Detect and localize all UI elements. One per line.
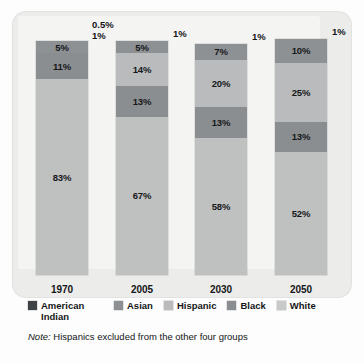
segment-value-label: 5% [135,42,149,53]
bar-segment-1970-white[interactable]: 83% [36,79,88,275]
bar-segment-2005-black[interactable]: 13% [116,86,168,117]
segment-value-label: 10% [292,45,311,56]
legend-item-white[interactable]: White [277,300,316,311]
segment-value-label: 14% [133,64,152,75]
bar-column-2050: 10%25%13%52% [275,39,327,275]
legend-swatch-icon [114,301,123,310]
stacked-bar-2050[interactable]: 10%25%13%52% [275,39,327,275]
legend-item-black[interactable]: Black [227,300,265,311]
bar-segment-2050-black[interactable]: 13% [275,122,327,153]
stacked-bars-layer: 5%11%83%19700.5%1%5%14%13%67%20051%7%20%… [13,12,351,297]
segment-value-label: 13% [133,96,152,107]
legend-label: White [290,300,316,311]
chart-container: 5%11%83%19700.5%1%5%14%13%67%20051%7%20%… [0,0,364,363]
legend-swatch-icon [164,301,173,310]
outside-value-label: 1% [92,30,106,41]
note-prefix: Note: [28,331,51,342]
legend-item-american-indian[interactable]: American Indian [28,300,103,322]
bar-segment-2030-asian[interactable]: 7% [195,44,247,61]
segment-value-label: 11% [53,61,71,72]
bar-segment-2030-black[interactable]: 13% [195,107,247,138]
stacked-bar-2030[interactable]: 7%20%13%58% [195,44,247,275]
segment-value-label: 13% [292,131,311,142]
x-axis-label-2005: 2005 [116,284,168,295]
legend-item-asian[interactable]: Asian [114,300,153,311]
legend-label: Hispanic [177,300,217,311]
legend-label: Asian [127,300,153,311]
legend-swatch-icon [227,301,236,310]
segment-value-label: 20% [212,78,231,89]
outside-value-label: 1% [252,31,266,42]
bar-segment-2005-white[interactable]: 67% [116,117,168,275]
note-text: Hispanics excluded from the other four g… [53,331,247,342]
bar-column-2005: 5%14%13%67% [116,41,168,275]
x-axis-label-2050: 2050 [275,284,327,295]
legend-swatch-icon [277,301,286,310]
bar-segment-2005-hispanic[interactable]: 14% [116,53,168,86]
segment-value-label: 5% [55,42,69,53]
segment-value-label: 83% [53,172,72,183]
legend-label: American Indian [41,300,103,322]
bar-segment-2050-asian[interactable]: 10% [275,39,327,63]
outside-value-label: 0.5% [92,19,114,30]
outside-value-label: 1% [173,28,187,39]
segment-value-label: 13% [212,117,231,128]
legend-item-hispanic[interactable]: Hispanic [164,300,217,311]
segment-value-label: 58% [212,201,231,212]
bar-segment-2050-white[interactable]: 52% [275,152,327,275]
legend-label: Black [240,300,265,311]
x-axis-label-2030: 2030 [195,284,247,295]
bar-segment-1970-asian[interactable]: 5% [36,41,88,53]
legend-swatch-icon [28,301,37,310]
stacked-bar-1970[interactable]: 5%11%83% [36,41,88,275]
segment-value-label: 7% [214,46,228,57]
segment-value-label: 52% [292,208,311,219]
bar-segment-1970-black[interactable]: 11% [36,53,88,79]
bar-column-2030: 7%20%13%58% [195,44,247,275]
bar-segment-2005-asian[interactable]: 5% [116,41,168,53]
outside-value-label: 1% [332,26,346,37]
bar-segment-2030-white[interactable]: 58% [195,138,247,275]
stacked-bar-2005[interactable]: 5%14%13%67% [116,41,168,275]
x-axis-label-1970: 1970 [36,284,88,295]
chart-note: Note: Hispanics excluded from the other … [28,331,248,342]
chart-legend: American IndianAsianHispanicBlackWhite [28,300,358,322]
bar-segment-2050-hispanic[interactable]: 25% [275,63,327,122]
bar-column-1970: 5%11%83% [36,41,88,275]
segment-value-label: 25% [292,87,311,98]
segment-value-label: 67% [133,190,152,201]
bar-segment-2030-hispanic[interactable]: 20% [195,60,247,107]
